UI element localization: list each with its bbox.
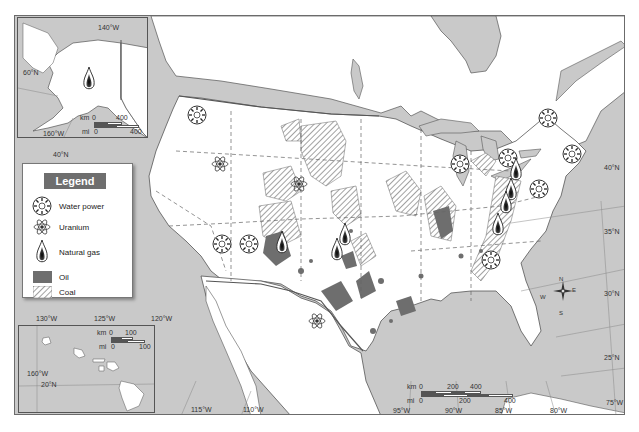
compass-w-label: W [540, 294, 546, 300]
water-power-icon [31, 196, 53, 216]
uranium-icon [31, 217, 53, 237]
coal-swatch-icon [31, 282, 53, 302]
compass-e-label: E [572, 287, 576, 293]
water-power-icon [563, 145, 581, 163]
alaska-scale-bar: km 0 400 mi 0 400 [80, 114, 145, 136]
lat-25-label: 25°N [604, 354, 620, 361]
water-power-icon [213, 235, 231, 253]
legend: Legend Water power Uranium Natural gas O… [22, 163, 133, 298]
natural-gas-icon [31, 238, 53, 266]
legend-item-uranium: Uranium [31, 217, 89, 237]
lat-30-label: 30°N [604, 290, 620, 297]
compass-s-label: S [559, 310, 563, 316]
main-scale-bar: km 0 200 400 mi 0 200 400 [407, 383, 517, 403]
lon-85-label: 85°W [495, 407, 512, 414]
alaska-inset: 140°W 60°N 160°W km 0 400 mi 0 400 [17, 17, 148, 138]
lon-125-label: 125°W [94, 315, 115, 322]
alaska-lon-160-label: 160°W [43, 130, 64, 137]
lon-110-label: 110°W [243, 406, 264, 413]
hawaii-lon-160-label: 160°W [27, 370, 48, 377]
legend-item-natural-gas: Natural gas [31, 238, 100, 266]
lat-40-left-label: 40°N [53, 151, 69, 158]
legend-item-coal: Coal [31, 282, 75, 302]
lon-130-label: 130°W [36, 315, 57, 322]
water-power-icon [539, 109, 557, 127]
lon-75-label: 75°W [606, 399, 623, 406]
hawaii-lat-20-label: 20°N [41, 381, 57, 388]
hawaii-inset: 160°W 20°N km 0 100 mi 0 100 [18, 325, 155, 413]
water-power-icon [530, 180, 548, 198]
water-power-icon [451, 155, 469, 173]
lon-115-label: 115°W [191, 406, 212, 413]
lon-90-label: 90°W [445, 407, 462, 414]
lon-120-label: 120°W [151, 315, 172, 322]
lon-95-label: 95°W [393, 407, 410, 414]
alaska-lon-140-label: 140°W [98, 24, 119, 31]
legend-title: Legend [44, 173, 106, 189]
alaska-lat-60-label: 60°N [23, 69, 39, 76]
lat-40-label: 40°N [604, 164, 620, 171]
compass-n-label: N [559, 276, 563, 282]
legend-item-water-power: Water power [31, 196, 104, 216]
water-power-icon [240, 235, 258, 253]
water-power-icon [482, 251, 500, 269]
lat-35-label: 35°N [604, 228, 620, 235]
lon-80-label: 80°W [550, 407, 567, 414]
hawaii-scale-bar: km 0 100 mi 0 100 [97, 329, 155, 353]
water-power-icon [188, 106, 206, 124]
